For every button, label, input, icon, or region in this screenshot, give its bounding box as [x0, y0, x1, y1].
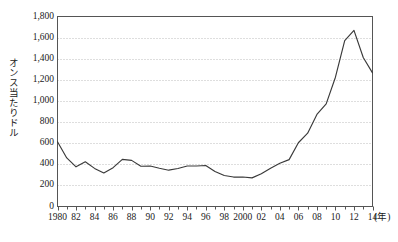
data-line-series [58, 30, 373, 178]
gridlines [58, 39, 373, 186]
gold-price-line-chart: オンス当たりドル 02004006008001,0001,2001,4001,6… [0, 0, 398, 242]
x-axis-tick-marks [59, 207, 374, 211]
plot-frame [58, 17, 373, 207]
plot-area [0, 0, 398, 242]
